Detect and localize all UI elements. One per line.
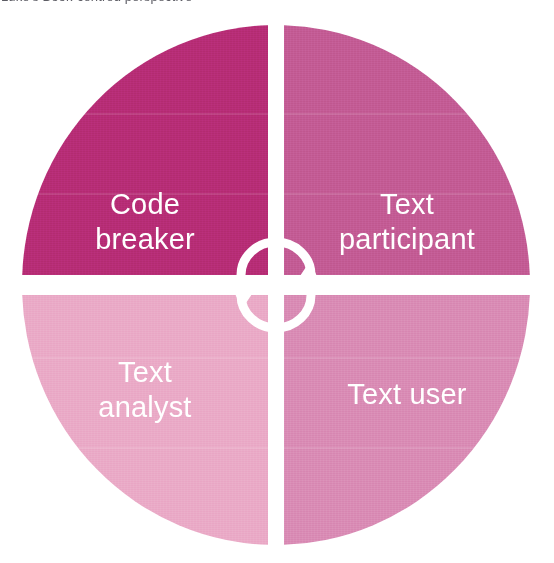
- figure-caption: Luke's Book-centred perspective: [0, 0, 554, 5]
- caption-strip: Luke's Book-centred perspective: [0, 0, 554, 5]
- four-resources-diagram: Code breaker Text participant Text analy…: [22, 25, 530, 545]
- cyclical-arrows-icon: [230, 227, 322, 343]
- quadrant-label-code-breaker: Code breaker: [30, 187, 260, 258]
- quadrant-label-text-analyst: Text analyst: [30, 355, 260, 426]
- quadrant-label-text-user: Text user: [292, 377, 522, 412]
- quadrant-label-text-participant: Text participant: [292, 187, 522, 258]
